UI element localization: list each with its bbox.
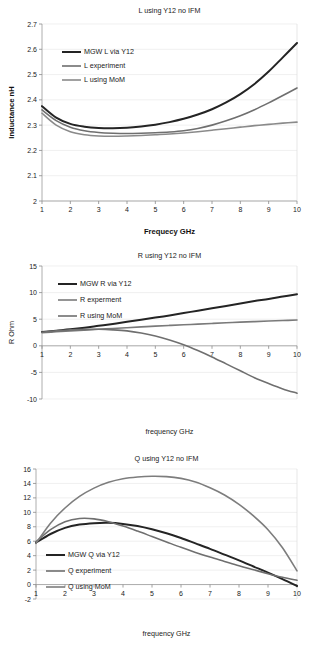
legend-label-3: R using MoM [80, 311, 122, 320]
y-tick-label: 8 [27, 523, 31, 530]
series-line-1 [42, 43, 297, 128]
x-tick-label: 7 [210, 206, 214, 213]
x-tick-labels: 12345678910 [40, 346, 301, 358]
chart-q: Q using Y12 no IFM-202468101214161234567… [0, 450, 323, 649]
series-line-3 [42, 329, 297, 393]
legend: MGW R via Y12R expermentR using MoM [58, 279, 131, 320]
x-tick-label: 2 [68, 351, 72, 358]
x-tick-label: 8 [238, 351, 242, 358]
series-line-2 [42, 320, 297, 333]
series-group [42, 43, 297, 136]
legend-label-3: L using MoM [84, 75, 125, 84]
x-tick-label: 10 [293, 351, 301, 358]
y-tick-label: 2 [27, 567, 31, 574]
chart-inductance-svg: L using Y12 no IFM22.12.22.32.42.52.62.7… [0, 0, 323, 248]
y-tick-label: 2.2 [27, 147, 37, 154]
x-tick-label: 9 [267, 206, 271, 213]
x-tick-label: 4 [121, 590, 125, 597]
x-axis-title: frequency GHz [143, 629, 191, 638]
x-tick-labels: 12345678910 [40, 201, 301, 213]
x-axis-title: Frequecy GHz [144, 227, 195, 236]
x-tick-label: 9 [266, 590, 270, 597]
y-tick-label: -10 [27, 396, 37, 403]
x-tick-label: 9 [267, 351, 271, 358]
x-tick-label: 1 [40, 206, 44, 213]
x-tick-label: 6 [182, 206, 186, 213]
x-tick-label: 6 [182, 351, 186, 358]
y-tick-label: 5 [33, 316, 37, 323]
legend-label-2: R experment [80, 295, 121, 304]
chart-q-svg: Q using Y12 no IFM-202468101214161234567… [0, 450, 323, 649]
x-tick-label: 4 [125, 206, 129, 213]
legend-label-1: MGW R via Y12 [80, 279, 131, 288]
y-tick-label: 2.6 [27, 46, 37, 53]
y-tick-label: 16 [23, 466, 31, 473]
y-tick-labels: -10-5051015 [27, 263, 42, 403]
chart-resistance: R using Y12 no IFM-10-505101512345678910… [0, 248, 323, 450]
series-line-3 [42, 113, 297, 136]
x-tick-label: 6 [179, 590, 183, 597]
y-tick-label: 10 [23, 509, 31, 516]
y-tick-label: 4 [27, 552, 31, 559]
y-tick-label: 2.3 [27, 122, 37, 129]
chart-resistance-svg: R using Y12 no IFM-10-505101512345678910… [0, 248, 323, 450]
y-tick-label: 2.4 [27, 96, 37, 103]
x-tick-label: 10 [293, 590, 301, 597]
x-tick-label: 1 [34, 590, 38, 597]
y-axis-title: Inductance nH [7, 86, 16, 138]
x-tick-label: 5 [153, 206, 157, 213]
chart-title: L using Y12 no IFM [139, 6, 201, 15]
y-tick-labels: -20246810121416 [23, 466, 36, 603]
x-tick-label: 2 [63, 590, 67, 597]
y-tick-label: -2 [25, 596, 31, 603]
x-tick-label: 10 [293, 206, 301, 213]
y-tick-label: 2.1 [27, 172, 37, 179]
y-tick-label: 6 [27, 538, 31, 545]
gridlines [42, 24, 297, 201]
y-tick-label: 15 [29, 263, 37, 270]
x-axis-title: frequency GHz [146, 427, 194, 436]
y-tick-label: -5 [31, 369, 37, 376]
figure-page: L using Y12 no IFM22.12.22.32.42.52.62.7… [0, 0, 323, 649]
x-tick-label: 2 [68, 206, 72, 213]
y-tick-label: 2.5 [27, 71, 37, 78]
chart-title: Q using Y12 no IFM [135, 454, 199, 463]
y-tick-label: 2 [33, 198, 37, 205]
x-tick-label: 8 [238, 206, 242, 213]
y-tick-label: 0 [33, 342, 37, 349]
legend-label-1: MGW L via Y12 [84, 47, 134, 56]
x-tick-label: 5 [153, 351, 157, 358]
y-axis-title: R Ohm [7, 321, 16, 344]
y-tick-labels: 22.12.22.32.42.52.62.7 [27, 21, 42, 205]
chart-title: R using Y12 no IFM [138, 251, 201, 260]
x-tick-label: 1 [40, 351, 44, 358]
x-tick-label: 8 [237, 590, 241, 597]
x-tick-label: 3 [97, 206, 101, 213]
y-tick-label: 14 [23, 480, 31, 487]
legend: MGW L via Y12L experimentL using MoM [62, 47, 134, 84]
legend-label-1: MGW Q via Y12 [68, 550, 120, 559]
chart-inductance: L using Y12 no IFM22.12.22.32.42.52.62.7… [0, 0, 323, 248]
y-tick-label: 12 [23, 494, 31, 501]
x-tick-label: 3 [97, 351, 101, 358]
legend-label-2: Q experiment [68, 566, 111, 575]
x-tick-label: 5 [150, 590, 154, 597]
x-tick-label: 7 [208, 590, 212, 597]
y-tick-label: 10 [29, 289, 37, 296]
legend-label-2: L experiment [84, 61, 125, 70]
y-tick-label: 0 [27, 581, 31, 588]
x-tick-label: 4 [125, 351, 129, 358]
series-group [42, 294, 297, 393]
legend-label-3: Q using MoM [68, 582, 111, 591]
y-tick-label: 2.7 [27, 21, 37, 28]
